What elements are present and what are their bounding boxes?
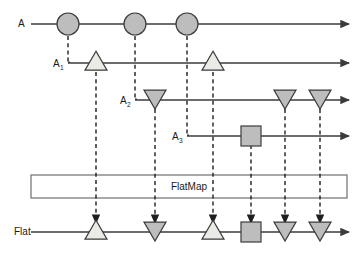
- stream-A1-event-triangle-up-1: [85, 51, 107, 70]
- stream-flat-event-triangle-up-2: [202, 220, 224, 239]
- stream-A2-label-text: A: [120, 95, 127, 106]
- triangle-up-shape: [202, 220, 224, 239]
- stream-A-event-circle-3: [176, 13, 198, 35]
- stream-A-event-circle-2: [124, 13, 146, 35]
- stream-A2-label: A2: [120, 95, 131, 108]
- flatmap-box-label: FlatMap: [171, 181, 208, 192]
- triangle-up-shape: [202, 51, 224, 70]
- circle-shape: [124, 13, 146, 35]
- circle-shape: [176, 13, 198, 35]
- derivation-links-layer: [68, 36, 187, 136]
- flatmap-box: FlatMap: [31, 175, 347, 198]
- flatmap-diagram: FlatMap AA1A2A3Flat: [0, 0, 361, 254]
- stream-flat-label-text: Flat: [14, 226, 31, 237]
- event-shapes-layer: [57, 13, 331, 242]
- circle-shape: [57, 13, 79, 35]
- diagram-canvas: FlatMap AA1A2A3Flat: [0, 0, 361, 254]
- stream-flat-label: Flat: [14, 226, 31, 237]
- stream-A1-label-text: A: [53, 58, 60, 69]
- triangle-up-shape: [85, 220, 107, 239]
- stream-A1-event-triangle-up-2: [202, 51, 224, 70]
- stream-A1-label-subscript: 1: [60, 64, 64, 71]
- triangle-up-shape: [85, 51, 107, 70]
- stream-A2-label-subscript: 2: [127, 101, 131, 108]
- streams-layer: [31, 24, 349, 232]
- stream-A-label: A: [18, 18, 25, 29]
- stream-flat-event-triangle-up-1: [85, 220, 107, 239]
- square-shape: [241, 222, 261, 242]
- stream-A-event-circle-1: [57, 13, 79, 35]
- stream-A1-label: A1: [53, 58, 64, 71]
- stream-A3-label: A3: [172, 131, 183, 144]
- stream-A3-label-subscript: 3: [179, 137, 183, 144]
- stream-A-label-text: A: [18, 18, 25, 29]
- square-shape: [241, 126, 261, 146]
- labels-layer: AA1A2A3Flat: [14, 18, 183, 237]
- flatmap-box-layer: FlatMap: [31, 175, 347, 198]
- stream-A3-label-text: A: [172, 131, 179, 142]
- stream-A3-event-square-1: [241, 126, 261, 146]
- stream-flat-event-square-1: [241, 222, 261, 242]
